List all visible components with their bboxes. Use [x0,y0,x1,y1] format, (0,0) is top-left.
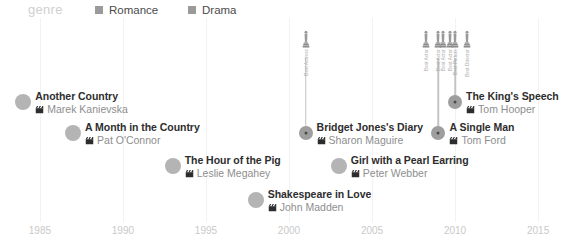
award-group: Best Actress [300,30,311,76]
axis-tick-label: 1985 [29,225,51,236]
award-label: Best Actress [303,49,308,76]
film-director: John Madden [280,201,344,213]
award-label: Best Director [465,49,470,77]
film-director-row: Peter Webber [351,167,469,179]
oscar-statuette-icon [301,30,310,48]
film-director: Tom Ford [461,134,505,146]
film-director: Leslie Megahey [197,167,271,179]
film-director: Peter Webber [363,167,428,179]
film-marker[interactable] [248,192,264,208]
clapperboard-icon [85,136,94,145]
film-marker[interactable] [448,95,462,109]
gridline [372,18,373,222]
award-item: Best Director [462,30,473,77]
film-marker[interactable] [431,126,445,140]
award-item: Best Actor [438,30,449,71]
film-title: The King's Speech [466,90,559,102]
film-title: Girl with a Pearl Earring [351,154,469,166]
oscar-statuette-icon [463,30,472,48]
film-timeline-chart: genre RomanceDrama 198519901995200020052… [0,0,573,250]
film-marker[interactable] [165,158,181,174]
film-director: Sharon Maguire [329,134,404,146]
film-marker[interactable] [65,125,81,141]
film-title: A Single Man [449,121,514,133]
marker-center-dot [304,132,307,135]
film-label: The Hour of the PigLeslie Megahey [185,154,281,179]
award-label: Best Picture [453,49,458,75]
gridline [40,18,41,222]
film-label: The King's SpeechTom Hooper [466,90,559,115]
film-director: Pat O'Connor [97,134,160,146]
clapperboard-icon [317,136,326,145]
film-director-row: John Madden [268,201,372,213]
clapperboard-icon [351,169,360,178]
film-marker[interactable] [299,126,313,140]
gridline [123,18,124,222]
award-label: Best Actor [441,49,446,71]
film-marker[interactable] [331,158,347,174]
axis-tick-label: 1990 [112,225,134,236]
oscar-statuette-icon [422,30,431,48]
award-item: Best Actor [421,30,432,71]
clapperboard-icon [185,169,194,178]
film-title: A Month in the Country [85,121,200,133]
film-director: Marek Kanievska [47,103,128,115]
clapperboard-icon [268,203,277,212]
clapperboard-icon [449,136,458,145]
film-entry[interactable]: Best ActorBest PictureBest DirectorThe K… [0,0,573,30]
film-director-row: Tom Ford [449,134,514,146]
film-director-row: Pat O'Connor [85,134,200,146]
film-label: Girl with a Pearl EarringPeter Webber [351,154,469,179]
film-director-row: Marek Kanievska [35,103,128,115]
film-label: A Month in the CountryPat O'Connor [85,121,200,146]
film-marker[interactable] [15,94,31,110]
film-title: Another Country [35,90,128,102]
axis-tick-label: 1995 [195,225,217,236]
film-label: A Single ManTom Ford [449,121,514,146]
marker-center-dot [437,132,440,135]
award-label: Best Actor [424,49,429,71]
film-title: Shakespeare in Love [268,188,372,200]
oscar-statuette-icon [439,30,448,48]
film-director-row: Leslie Megahey [185,167,281,179]
award-group: Best ActorBest PictureBest Director [438,30,473,77]
film-label: Shakespeare in LoveJohn Madden [268,188,372,213]
award-item: Best Actress [300,30,311,76]
film-label: Another CountryMarek Kanievska [35,90,128,115]
axis-tick-label: 2000 [278,225,300,236]
clapperboard-icon [35,105,44,114]
oscar-statuette-icon [451,30,460,48]
marker-center-dot [454,101,457,104]
film-director-row: Tom Hooper [466,103,559,115]
award-item: Best Picture [450,30,461,75]
film-label: Bridget Jones's DiarySharon Maguire [317,121,423,146]
gridline [538,18,539,222]
clapperboard-icon [466,105,475,114]
axis-tick-label: 2015 [527,225,549,236]
film-title: The Hour of the Pig [185,154,281,166]
film-director: Tom Hooper [478,103,535,115]
gridline [206,18,207,222]
film-title: Bridget Jones's Diary [317,121,423,133]
film-director-row: Sharon Maguire [317,134,423,146]
axis-tick-label: 2005 [361,225,383,236]
axis-tick-label: 2010 [444,225,466,236]
